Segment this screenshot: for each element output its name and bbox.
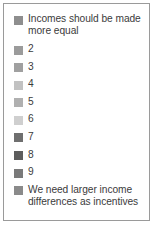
legend-item[interactable]: We need larger income differences as inc… (14, 184, 145, 209)
legend-item-label: 3 (28, 61, 145, 73)
legend-item[interactable]: 4 (14, 78, 145, 90)
chart-legend-box: Incomes should be made more equal 2 3 4 … (3, 3, 150, 221)
legend-item-label: 8 (28, 149, 145, 161)
legend-item-label: 7 (28, 131, 145, 143)
legend-item[interactable]: 5 (14, 96, 145, 108)
legend-item[interactable]: 7 (14, 131, 145, 143)
legend-color-swatch (14, 63, 23, 72)
legend-color-swatch (14, 186, 23, 195)
legend-item[interactable]: 6 (14, 113, 145, 125)
legend-item-label: 5 (28, 96, 145, 108)
legend-color-swatch (14, 133, 23, 142)
legend-color-swatch (14, 98, 23, 107)
legend-item-label: 4 (28, 78, 145, 90)
legend-color-swatch (14, 151, 23, 160)
legend-color-swatch (14, 169, 23, 178)
legend-item[interactable]: 2 (14, 43, 145, 55)
legend-item[interactable]: 8 (14, 149, 145, 161)
legend-item-list: Incomes should be made more equal 2 3 4 … (4, 4, 149, 214)
legend-item-label: 2 (28, 43, 145, 55)
legend-item-label: 6 (28, 113, 145, 125)
legend-color-swatch (14, 81, 23, 90)
legend-item[interactable]: Incomes should be made more equal (14, 13, 145, 38)
legend-item-label: We need larger income differences as inc… (28, 184, 145, 209)
legend-color-swatch (14, 46, 23, 55)
legend-item-label: Incomes should be made more equal (28, 13, 145, 38)
legend-item[interactable]: 9 (14, 166, 145, 178)
legend-color-swatch (14, 16, 23, 25)
legend-item[interactable]: 3 (14, 61, 145, 73)
legend-item-label: 9 (28, 166, 145, 178)
legend-color-swatch (14, 116, 23, 125)
